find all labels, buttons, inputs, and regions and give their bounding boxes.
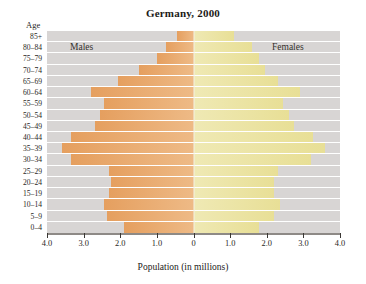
y-axis-tick-label: 45–49 [0, 121, 45, 132]
x-axis-tick-label: 3.0 [298, 239, 308, 248]
plot-area [47, 31, 340, 233]
bar-male [100, 110, 193, 120]
x-axis-tick [230, 233, 231, 238]
x-axis-title: Population (in millions) [0, 262, 366, 272]
y-axis-tick-label: 65–69 [0, 76, 45, 87]
x-axis-tick [340, 233, 341, 238]
x-axis-tick-labels: 4.03.02.01.001.02.03.04.0 [0, 239, 366, 253]
bar-male [177, 31, 193, 41]
x-axis-tick [303, 233, 304, 238]
x-axis-tick [84, 233, 85, 238]
bar-female [194, 199, 280, 209]
chart-title: Germany, 2000 [0, 7, 366, 19]
y-axis-tick-label: 85+ [0, 31, 45, 42]
y-axis-tick-labels: 85+80–8475–7970–7465–6960–6455–5950–5445… [0, 31, 45, 233]
bar-male [62, 143, 194, 153]
bar-female [194, 42, 253, 52]
y-axis-tick-label: 0–4 [0, 222, 45, 233]
y-axis-tick-label: 80–84 [0, 42, 45, 53]
y-axis-tick-label: 60–64 [0, 87, 45, 98]
bar-female [194, 65, 265, 75]
x-axis-tick-label: 1.0 [225, 239, 235, 248]
y-axis-tick-label: 55–59 [0, 98, 45, 109]
bar-male [107, 211, 193, 221]
bar-female [194, 222, 260, 233]
x-axis-tick [47, 233, 48, 238]
y-axis-tick-label: 25–29 [0, 166, 45, 177]
bar-male [95, 121, 194, 131]
bar-female [194, 143, 326, 153]
bar-female [194, 87, 300, 97]
bar-female [194, 166, 278, 176]
bar-male [139, 65, 194, 75]
x-axis-tick-label: 2.0 [115, 239, 125, 248]
bar-male [91, 87, 194, 97]
y-axis-tick-label: 30–34 [0, 154, 45, 165]
y-axis-caption: Age [26, 20, 40, 30]
x-axis-tick-label: 4.0 [335, 239, 345, 248]
y-axis-tick-label: 50–54 [0, 110, 45, 121]
y-axis-tick-label: 35–39 [0, 143, 45, 154]
x-axis-tick [267, 233, 268, 238]
bar-female [194, 188, 275, 198]
bar-female [194, 132, 313, 142]
bar-female [194, 53, 260, 63]
zero-axis-line [193, 31, 194, 233]
x-axis-tick-label: 0 [191, 239, 195, 248]
y-axis-tick-label: 5–9 [0, 211, 45, 222]
bar-male [109, 188, 193, 198]
bar-male [157, 53, 194, 63]
bar-female [194, 76, 278, 86]
y-axis-tick-label: 40–44 [0, 132, 45, 143]
bar-male [104, 199, 194, 209]
y-axis-tick-label: 75–79 [0, 53, 45, 64]
y-axis-tick-label: 10–14 [0, 199, 45, 210]
x-axis-tick-label: 3.0 [78, 239, 88, 248]
bar-female [194, 177, 275, 187]
bar-female [194, 154, 311, 164]
y-axis-tick-label: 70–74 [0, 65, 45, 76]
y-axis-tick-label: 20–24 [0, 177, 45, 188]
bar-female [194, 110, 289, 120]
x-axis-tick-label: 4.0 [42, 239, 52, 248]
population-pyramid-chart: Germany, 2000 Age 85+80–8475–7970–7465–6… [0, 0, 366, 284]
bar-male [118, 76, 193, 86]
x-axis-tick [194, 233, 195, 238]
bar-male [71, 154, 194, 164]
bar-male [111, 177, 193, 187]
x-axis-tick [120, 233, 121, 238]
bar-male [109, 166, 193, 176]
bar-male [166, 42, 193, 52]
series-label-females: Females [272, 42, 304, 52]
bar-female [194, 211, 275, 221]
x-axis-tick [157, 233, 158, 238]
bar-female [194, 121, 295, 131]
x-axis-tick-label: 2.0 [262, 239, 272, 248]
y-axis-tick-label: 15–19 [0, 188, 45, 199]
bar-male [124, 222, 194, 233]
x-axis-tick-label: 1.0 [152, 239, 162, 248]
x-axis-ticks [47, 233, 340, 238]
bar-female [194, 98, 284, 108]
series-label-males: Males [70, 42, 93, 52]
bar-female [194, 31, 234, 41]
bar-male [71, 132, 194, 142]
bar-male [104, 98, 194, 108]
